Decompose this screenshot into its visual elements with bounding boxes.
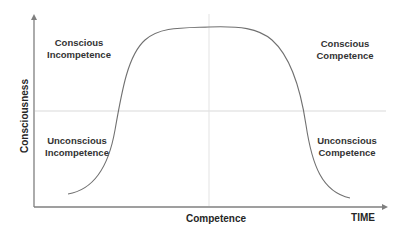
x-axis-arrow-icon <box>382 204 388 210</box>
quadrant-unconscious-competence: Unconscious Competence <box>312 135 382 159</box>
quadrant-conscious-incompetence: Conscious Incompetence <box>44 37 114 61</box>
quadrant-conscious-competence: Conscious Competence <box>310 38 380 62</box>
quadrant-line1: Unconscious <box>312 135 382 147</box>
quadrant-unconscious-incompetence: Unconscious Incompetence <box>42 135 112 159</box>
quadrant-line2: Competence <box>312 147 382 159</box>
x-axis-label: Competence <box>186 213 246 224</box>
quadrant-line1: Conscious <box>44 37 114 49</box>
y-axis-label: Consciousness <box>19 79 30 153</box>
quadrant-line2: Competence <box>310 50 380 62</box>
time-axis-label: TIME <box>351 212 375 223</box>
quadrant-line2: Incompetence <box>42 147 112 159</box>
quadrant-line2: Incompetence <box>44 49 114 61</box>
diagram-canvas <box>0 0 404 235</box>
y-axis-arrow-icon <box>31 14 37 20</box>
quadrant-line1: Conscious <box>310 38 380 50</box>
quadrant-line1: Unconscious <box>42 135 112 147</box>
